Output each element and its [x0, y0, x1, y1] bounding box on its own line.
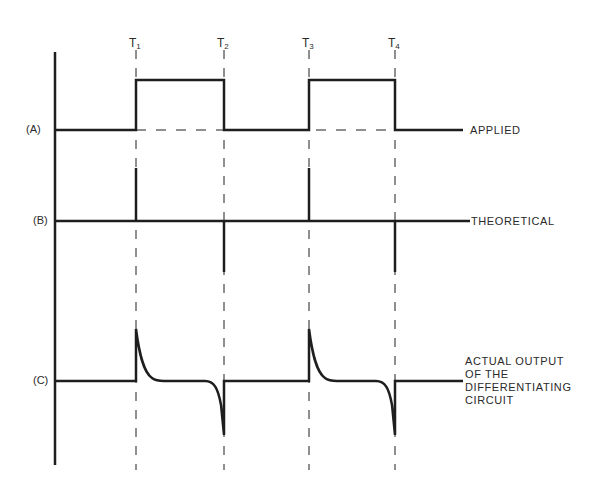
waveform-applied [55, 80, 463, 130]
actual-output-label: ACTUAL OUTPUT OF THE DIFFERENTIATING CIR… [465, 355, 572, 407]
applied-label: APPLIED [470, 124, 521, 136]
time-label-t2: T2 [217, 36, 229, 51]
actual-output-label-line-1: ACTUAL OUTPUT [465, 355, 572, 368]
waveform-actual-output [55, 329, 463, 435]
time-label-t3: T3 [302, 36, 314, 51]
time-label-t4: T4 [388, 36, 400, 51]
row-label-b: (B) [33, 214, 48, 226]
theoretical-label: THEORETICAL [471, 215, 555, 227]
waveform-diagram [0, 0, 611, 493]
actual-output-label-line-3: DIFFERENTIATING [465, 381, 572, 394]
row-label-c: (C) [33, 374, 48, 386]
row-label-a: (A) [26, 123, 41, 135]
actual-output-label-line-4: CIRCUIT [465, 394, 572, 407]
actual-output-label-line-2: OF THE [465, 368, 572, 381]
waveform-theoretical [55, 168, 470, 272]
time-marker-lines [136, 50, 395, 470]
time-label-t1: T1 [129, 36, 141, 51]
